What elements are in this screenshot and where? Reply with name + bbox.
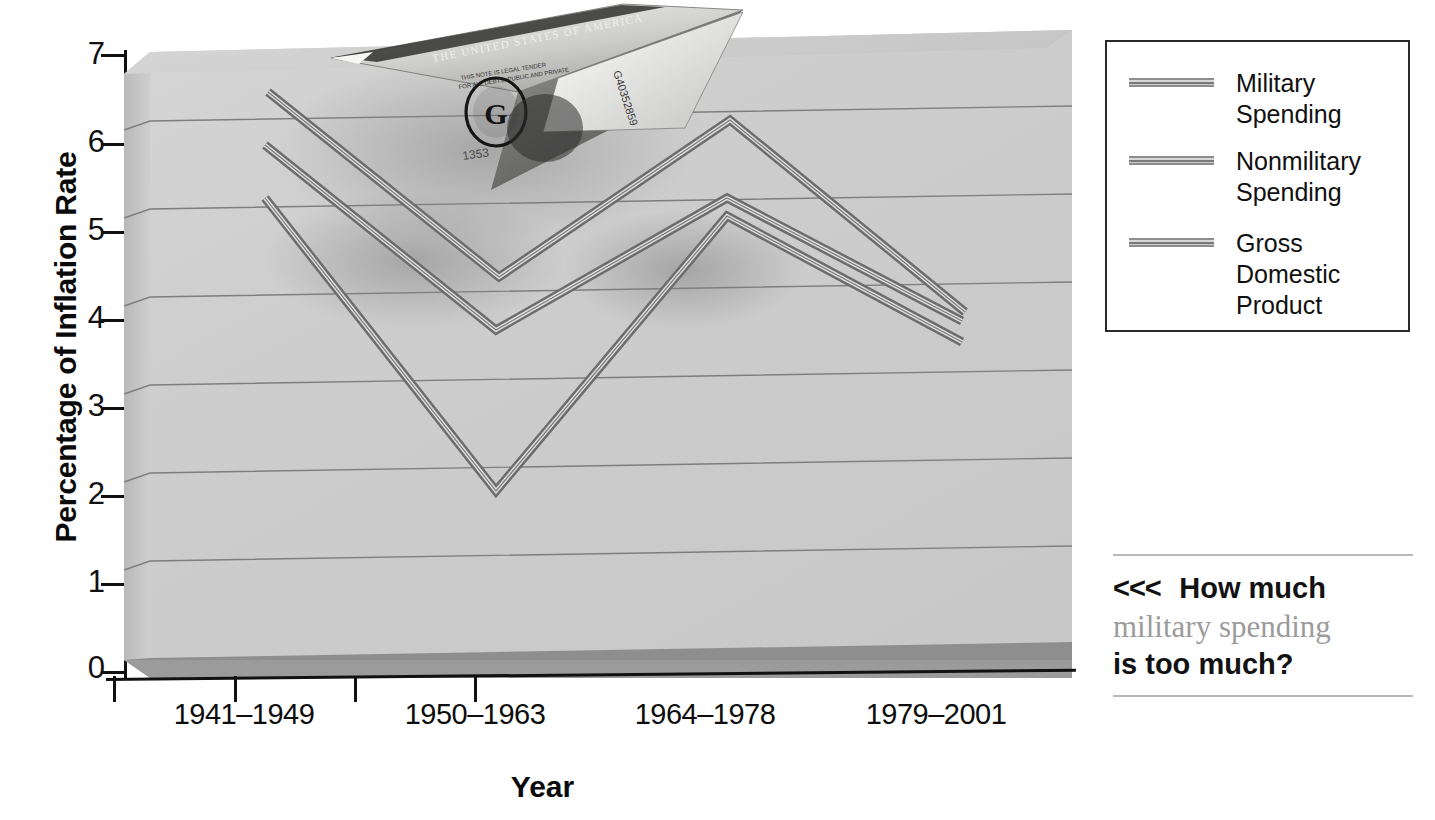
y-tick-mark-2: [101, 495, 125, 498]
legend-label-nonmilitary-spending: Nonmilitary Spending: [1236, 146, 1408, 208]
x-tick-mark-2: [354, 676, 357, 702]
y-tick-mark-4: [101, 319, 125, 322]
legend-swatch-nonmilitary-spending: [1129, 156, 1214, 165]
pull-quote-text-1: How much: [1179, 572, 1326, 604]
y-tick-label-5: 5: [65, 214, 105, 245]
legend-label-military-spending: Military Spending: [1236, 68, 1408, 130]
dollar-bill-paper-airplane-image: THE UNITED STATES OF AMERICA THIS NOTE I…: [313, 0, 743, 198]
plot-left-panel: [124, 52, 150, 678]
chart-legend: Military Spending Nonmilitary Spending G…: [1105, 40, 1410, 332]
pull-quote: <<< How much military spending is too mu…: [1113, 554, 1413, 697]
y-tick-label-4: 4: [65, 302, 105, 333]
y-tick-label-1: 1: [65, 566, 105, 597]
y-tick-label-0: 0: [65, 652, 105, 683]
triple-chevron-left-icon: <<<: [1113, 572, 1161, 604]
x-tick-label-1941-1949: 1941–1949: [174, 698, 315, 731]
legend-swatch-gross-domestic-product: [1129, 238, 1214, 247]
bill-plate-number: 1353: [461, 145, 490, 163]
x-tick-label-1964-1978: 1964–1978: [635, 698, 776, 731]
chart-page: Percentage of Inflation Rate 7 6 5 4 3 2…: [0, 0, 1435, 820]
legend-item-nonmilitary-spending[interactable]: Nonmilitary Spending: [1129, 146, 1408, 208]
y-tick-mark-0: [101, 671, 125, 674]
legend-item-gross-domestic-product[interactable]: Gross Domestic Product: [1129, 228, 1386, 321]
legend-item-military-spending[interactable]: Military Spending: [1129, 68, 1408, 130]
y-tick-mark-1: [101, 583, 125, 586]
y-tick-mark-3: [101, 407, 125, 410]
legend-swatch-military-spending: [1129, 78, 1214, 87]
x-tick-label-1950-1963: 1950–1963: [405, 698, 546, 731]
y-tick-label-3: 3: [65, 390, 105, 421]
pull-quote-line-1: <<< How much: [1113, 570, 1413, 608]
pull-quote-rule-bottom: [1113, 695, 1413, 697]
y-tick-label-2: 2: [65, 478, 105, 509]
y-tick-label-7: 7: [65, 38, 105, 69]
y-tick-mark-7: [101, 54, 125, 57]
pull-quote-body: <<< How much military spending is too mu…: [1113, 556, 1413, 695]
bill-portrait-shadow: [507, 94, 583, 162]
x-tick-mark-0: [113, 676, 116, 702]
bill-seal-letter: G: [484, 97, 507, 130]
y-tick-mark-6: [101, 143, 125, 146]
y-tick-label-6: 6: [65, 126, 105, 157]
x-axis-title: Year: [0, 770, 1085, 804]
pull-quote-text-3: is too much?: [1113, 646, 1413, 684]
pull-quote-text-2: military spending: [1113, 608, 1413, 646]
legend-label-gross-domestic-product: Gross Domestic Product: [1236, 228, 1386, 321]
x-tick-label-1979-2001: 1979–2001: [866, 698, 1007, 731]
y-tick-mark-5: [101, 231, 125, 234]
